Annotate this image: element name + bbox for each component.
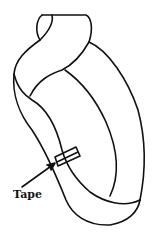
small-loop — [37, 15, 53, 40]
mobius-strip-drawing — [0, 0, 155, 239]
top-fold-edge — [30, 15, 91, 96]
outer-right-edge — [89, 42, 144, 200]
diagram-canvas: Tape — [0, 0, 155, 239]
tape-label: Tape — [13, 188, 42, 201]
inner-left-edge — [14, 74, 140, 204]
inner-right-edge — [65, 70, 116, 196]
